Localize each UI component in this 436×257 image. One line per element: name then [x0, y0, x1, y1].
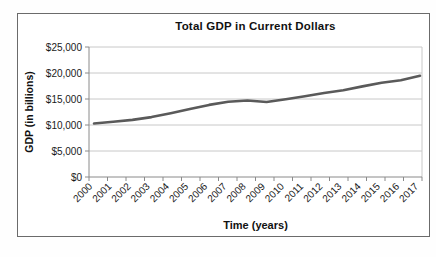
x-tick-label: 2010: [263, 180, 287, 204]
x-tick-label: 2011: [282, 180, 305, 203]
x-tick-label: 2002: [109, 180, 133, 204]
x-tick-label: 2001: [90, 180, 114, 204]
x-tick-label: 2012: [301, 180, 325, 204]
x-axis-title: Time (years): [89, 219, 422, 231]
y-tick-label: $15,000: [46, 94, 83, 105]
y-tick-label: $0: [71, 172, 83, 183]
plot-area: $0$5,000$10,000$15,000$20,000$25,0002000…: [18, 14, 429, 236]
y-tick-label: $5,000: [51, 146, 82, 157]
y-tick-label: $25,000: [46, 42, 83, 53]
x-tick-label: 2017: [397, 180, 421, 204]
y-tick-label: $10,000: [46, 120, 83, 131]
x-tick-label: 2016: [378, 180, 402, 204]
x-tick-label: 2003: [128, 180, 152, 204]
data-series-line: [94, 76, 420, 124]
chart-frame: $0$5,000$10,000$15,000$20,000$25,0002000…: [17, 13, 430, 237]
chart-title: Total GDP in Current Dollars: [89, 20, 422, 32]
x-tick-label: 2014: [339, 180, 363, 204]
x-tick-label: 2006: [186, 180, 210, 204]
y-tick-label: $20,000: [46, 68, 83, 79]
x-tick-label: 2004: [148, 180, 172, 204]
y-axis-title: GDP (in billions): [23, 49, 37, 175]
x-tick-label: 2005: [167, 180, 191, 204]
chart-figure: $0$5,000$10,000$15,000$20,000$25,0002000…: [0, 0, 436, 257]
x-tick-label: 2013: [320, 180, 344, 204]
x-tick-label: 2009: [243, 180, 267, 204]
x-tick-label: 2015: [359, 180, 383, 204]
x-tick-label: 2007: [205, 180, 229, 204]
x-tick-label: 2008: [224, 180, 248, 204]
x-tick-label: 2000: [71, 180, 95, 204]
